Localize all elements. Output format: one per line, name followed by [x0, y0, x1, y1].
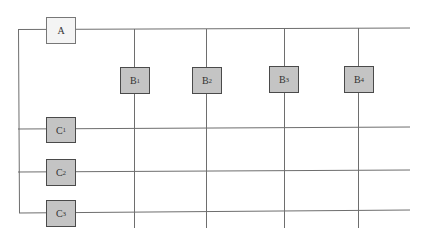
node-b2-label: B: [202, 75, 209, 86]
node-c2-label: C: [56, 167, 63, 178]
node-c1-subscript: 1: [63, 126, 67, 134]
node-c2: C2: [46, 159, 76, 186]
left-vertical-line: [19, 29, 20, 213]
node-b3-subscript: 3: [286, 76, 290, 84]
node-b3: B3: [269, 66, 299, 93]
node-b4-label: B: [354, 74, 361, 85]
node-a-label: A: [57, 25, 64, 36]
top-bus-line: [18, 28, 410, 30]
row-line-c2: [18, 170, 410, 172]
node-b1-label: B: [130, 75, 137, 86]
node-c3-label: C: [56, 208, 63, 219]
node-b4-subscript: 4: [361, 76, 365, 84]
node-b2-subscript: 2: [209, 77, 213, 85]
node-c3-subscript: 3: [63, 210, 67, 218]
node-c1-label: C: [56, 125, 63, 136]
node-c3: C3: [46, 200, 76, 227]
node-b4: B4: [344, 66, 374, 93]
node-b1: B1: [120, 67, 150, 94]
node-c1: C1: [46, 117, 76, 143]
row-line-c3: [19, 210, 410, 213]
node-b2: B2: [192, 67, 222, 94]
node-b1-subscript: 1: [137, 77, 141, 85]
row-line-c1: [18, 127, 410, 129]
node-a: A: [46, 17, 76, 44]
node-b3-label: B: [279, 74, 286, 85]
node-c2-subscript: 2: [63, 169, 67, 177]
